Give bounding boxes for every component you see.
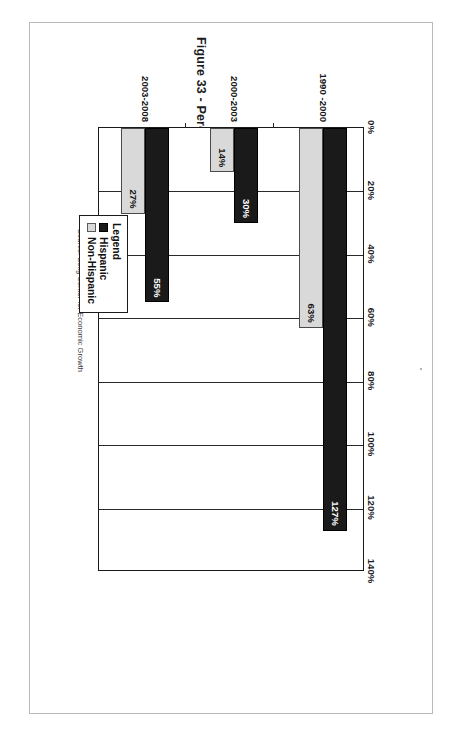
bar-group: 2003-200855%27% xyxy=(121,128,169,570)
axis-tick-label: 120% xyxy=(366,495,377,520)
bar-group: 2000-200330%14% xyxy=(210,128,258,570)
bar-chart: 0%20%40%60%80%100%120%140% 1990 -2000127… xyxy=(90,127,382,571)
category-label: 2000-2003 xyxy=(229,76,240,122)
category-label: 2003-2008 xyxy=(140,76,151,122)
rotated-page-content: Figure 33 - Percentage Growth in Buying … xyxy=(30,23,434,715)
bar-value-label: 55% xyxy=(152,278,163,297)
bar-value-label: 27% xyxy=(128,189,139,208)
legend-item-label: Hispanic xyxy=(98,237,109,280)
scanned-figure-page: { "page": { "figure_title": "Figure 33 -… xyxy=(0,0,462,735)
legend-items: HispanicNon-Hispanic xyxy=(86,223,109,304)
bar-non-hispanic: 14% xyxy=(210,128,234,172)
bar-non-hispanic: 27% xyxy=(121,128,145,214)
axis-tick-label: 0% xyxy=(366,120,377,134)
legend-item: Hispanic xyxy=(98,223,109,304)
bar-hispanic: 55% xyxy=(145,128,169,302)
bar-non-hispanic: 63% xyxy=(299,128,323,328)
axis-tick-label: 60% xyxy=(366,308,377,327)
category-tick xyxy=(185,123,186,128)
axis-tick-label: 80% xyxy=(366,371,377,390)
axis-tick-label: 40% xyxy=(366,244,377,263)
legend-swatch-icon xyxy=(87,223,96,232)
bar-value-label: 14% xyxy=(217,148,228,167)
bar-value-label: 63% xyxy=(305,304,316,323)
category-label: 1990 -2000 xyxy=(317,73,328,122)
bar-value-label: 127% xyxy=(329,501,340,526)
plot-area: 1990 -2000127%63%2000-200330%14%2003-200… xyxy=(98,127,364,571)
bar-hispanic: 30% xyxy=(234,128,258,223)
scan-artifact-speck xyxy=(420,368,422,370)
axis-tick-label: 20% xyxy=(366,181,377,200)
category-tick xyxy=(273,123,274,128)
axis-tick-label: 100% xyxy=(366,432,377,457)
axis-tick-label: 140% xyxy=(366,559,377,584)
legend-item-label: Non-Hispanic xyxy=(86,237,97,304)
bar-group: 1990 -2000127%63% xyxy=(299,128,347,570)
bar-value-label: 30% xyxy=(241,199,252,218)
legend-item: Non-Hispanic xyxy=(86,223,97,304)
value-axis-tick-labels: 0%20%40%60%80%100%120%140% xyxy=(366,127,382,571)
legend-swatch-icon xyxy=(99,223,108,232)
scanned-page-sheet: Figure 33 - Percentage Growth in Buying … xyxy=(29,22,433,714)
bar-hispanic: 127% xyxy=(323,128,347,531)
legend-title: Legend xyxy=(111,223,122,304)
chart-legend: Legend HispanicNon-Hispanic xyxy=(79,215,128,313)
